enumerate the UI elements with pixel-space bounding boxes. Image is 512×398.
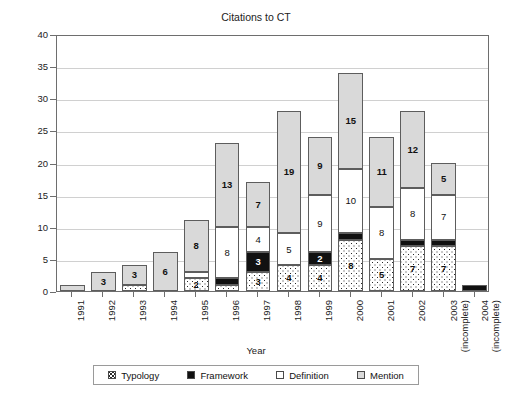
- bar-segment-framework[interactable]: [338, 233, 363, 239]
- legend-swatch-mention-icon: [357, 371, 365, 379]
- bar-column[interactable]: 3347: [246, 34, 271, 291]
- y-tick-label: 15: [6, 190, 48, 201]
- bar-column[interactable]: 4299: [308, 34, 333, 291]
- x-tick-mark: [164, 292, 165, 297]
- legend-swatch-typology-icon: [108, 371, 116, 379]
- bar-segment-mention[interactable]: 12: [400, 111, 425, 188]
- bar-segment-framework[interactable]: [462, 285, 487, 291]
- bar-column[interactable]: 7812: [400, 34, 425, 291]
- bar-segment-mention[interactable]: 3: [91, 272, 116, 291]
- bar-segment-definition[interactable]: 7: [431, 195, 456, 240]
- bar-column[interactable]: 3: [122, 34, 147, 291]
- bar-segment-framework[interactable]: [215, 278, 240, 284]
- bar-segment-value: 8: [194, 241, 199, 251]
- bar-segment-typology[interactable]: 7: [400, 246, 425, 291]
- bar-segment-value: 7: [410, 264, 415, 274]
- x-tick-label: 1994: [168, 300, 179, 321]
- legend-item-framework[interactable]: Framework: [187, 370, 248, 381]
- bar-segment-mention[interactable]: 6: [153, 252, 178, 291]
- bar-column[interactable]: 3: [91, 34, 116, 291]
- bar-segment-framework[interactable]: [400, 240, 425, 246]
- x-tick-label: 2002: [416, 300, 427, 321]
- bar-segment-framework[interactable]: 2: [308, 252, 333, 265]
- bar-segment-definition[interactable]: 10: [338, 169, 363, 233]
- bar-segment-value: 7: [441, 264, 446, 274]
- bar-segment-value: 5: [286, 245, 291, 255]
- bar-segment-value: 5: [441, 174, 446, 184]
- bar-segment-value: 3: [255, 257, 260, 267]
- bar-segment-typology[interactable]: 4: [277, 265, 302, 291]
- bar-segment-definition[interactable]: [184, 272, 209, 278]
- bar-column[interactable]: [60, 34, 85, 291]
- bar-segment-value: 9: [317, 161, 322, 171]
- chart-legend: TypologyFrameworkDefinitionMention: [93, 365, 419, 385]
- bar-segment-definition[interactable]: 5: [277, 233, 302, 265]
- bar-segment-mention[interactable]: 19: [277, 111, 302, 233]
- x-tick-label: 2001: [385, 300, 396, 321]
- bar-segment-typology[interactable]: 3: [246, 272, 271, 291]
- x-tick-label: 1999: [323, 300, 334, 321]
- bar-segment-value: 4: [317, 273, 322, 283]
- bar-segment-mention[interactable]: 7: [246, 182, 271, 227]
- bar-segment-value: 10: [346, 196, 357, 206]
- x-tick-mark: [133, 292, 134, 297]
- y-tick-label: 25: [6, 125, 48, 136]
- bar-segment-typology[interactable]: 8: [338, 240, 363, 291]
- bar-segment-mention[interactable]: 5: [431, 163, 456, 195]
- bar-segment-mention[interactable]: 8: [184, 220, 209, 271]
- bar-segment-value: 8: [224, 248, 229, 258]
- bar-segment-mention[interactable]: 11: [369, 137, 394, 208]
- bar-segment-mention[interactable]: 9: [308, 137, 333, 195]
- bar-segment-framework[interactable]: 3: [246, 252, 271, 271]
- x-tick-mark: [319, 292, 320, 297]
- bar-segment-value: 15: [346, 116, 357, 126]
- bar-segment-definition[interactable]: 8: [400, 188, 425, 239]
- bar-column[interactable]: 6: [153, 34, 178, 291]
- chart-title: Citations to CT: [0, 11, 512, 23]
- y-tick-label: 0: [6, 286, 48, 297]
- bar-column[interactable]: 28: [184, 34, 209, 291]
- bar-column[interactable]: 4519: [277, 34, 302, 291]
- x-tick-label: 1996: [230, 300, 241, 321]
- bar-segment-value: 8: [410, 209, 415, 219]
- bar-column[interactable]: 775: [431, 34, 456, 291]
- bar-segment-value: 4: [255, 235, 260, 245]
- legend-swatch-framework-icon: [187, 371, 195, 379]
- bar-segment-typology[interactable]: [215, 285, 240, 291]
- bar-segment-value: 5: [379, 270, 384, 280]
- bar-segment-typology[interactable]: 7: [431, 246, 456, 291]
- bar-column[interactable]: 81015: [338, 34, 363, 291]
- bar-segment-mention[interactable]: [60, 285, 85, 291]
- legend-label: Mention: [370, 370, 404, 381]
- legend-item-definition[interactable]: Definition: [276, 370, 329, 381]
- bar-segment-definition[interactable]: 8: [369, 207, 394, 258]
- y-tick-label: 30: [6, 93, 48, 104]
- bar-segment-typology[interactable]: 4: [308, 265, 333, 291]
- legend-item-typology[interactable]: Typology: [108, 370, 159, 381]
- bar-segment-mention[interactable]: 3: [122, 265, 147, 284]
- y-tick-mark: [50, 292, 56, 293]
- bar-segment-definition[interactable]: 8: [215, 227, 240, 278]
- bar-segment-mention[interactable]: 15: [338, 73, 363, 169]
- bar-segment-typology[interactable]: 2: [184, 278, 209, 291]
- x-axis-title: Year: [0, 345, 512, 356]
- bar-segment-typology[interactable]: [122, 285, 147, 291]
- y-tick-label: 10: [6, 222, 48, 233]
- y-tick-label: 40: [6, 29, 48, 40]
- bar-segment-framework[interactable]: [431, 240, 456, 246]
- legend-item-mention[interactable]: Mention: [357, 370, 404, 381]
- bar-column[interactable]: 5811: [369, 34, 394, 291]
- bar-segment-definition[interactable]: 9: [308, 195, 333, 253]
- bar-segment-typology[interactable]: 5: [369, 259, 394, 291]
- bar-segment-definition[interactable]: 4: [246, 227, 271, 253]
- x-tick-mark: [102, 292, 103, 297]
- bar-segment-mention[interactable]: 13: [215, 143, 240, 227]
- bar-segment-value: 6: [163, 267, 168, 277]
- x-tick-mark: [226, 292, 227, 297]
- bar-segment-value: 7: [441, 212, 446, 222]
- bar-segment-value: 7: [255, 200, 260, 210]
- bar-segment-value: 3: [101, 277, 106, 287]
- bar-column[interactable]: [462, 34, 487, 291]
- legend-label: Definition: [289, 370, 329, 381]
- bar-column[interactable]: 813: [215, 34, 240, 291]
